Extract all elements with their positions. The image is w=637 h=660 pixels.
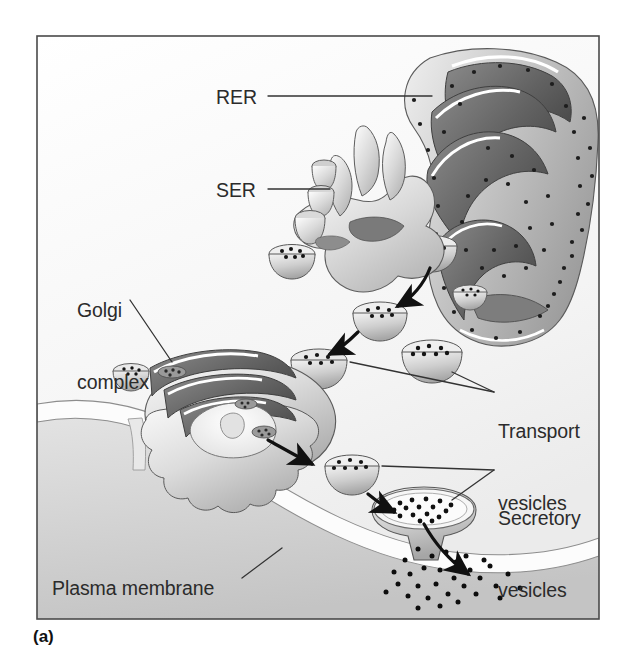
label-transport-line1: Transport <box>498 419 580 443</box>
figure-secretory-pathway: RER SER Golgi complex Transport vesicles… <box>0 0 637 660</box>
label-plasma-membrane: Plasma membrane <box>52 576 214 600</box>
label-golgi-complex: Golgi complex <box>77 250 149 418</box>
label-rer: RER <box>216 85 257 109</box>
label-secretory-vesicles: Secretory vesicles <box>498 458 581 626</box>
label-secretory-line2: vesicles <box>498 578 581 602</box>
label-ser: SER <box>216 178 256 202</box>
label-secretory-line1: Secretory <box>498 506 581 530</box>
label-golgi-line1: Golgi <box>77 298 149 322</box>
figure-caption: (a) <box>33 627 54 647</box>
label-golgi-line2: complex <box>77 370 149 394</box>
